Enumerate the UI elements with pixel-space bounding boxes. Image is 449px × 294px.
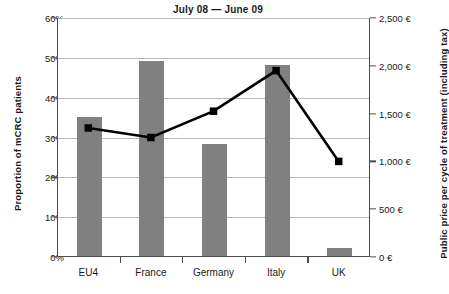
y-tick-mark-right — [370, 161, 376, 162]
x-tick-label: UK — [294, 267, 384, 278]
x-tick-mark — [307, 257, 308, 263]
bar — [327, 248, 352, 256]
y-tick-label-right: 1,500 € — [379, 108, 439, 119]
gridline — [58, 58, 369, 59]
y-tick-mark-right — [370, 256, 376, 257]
y-tick-label-right: 500 € — [379, 204, 439, 215]
y-tick-mark-right — [370, 65, 376, 66]
y-axis-label-right: Public price per cycle of treatment (inc… — [438, 19, 449, 269]
gridline — [58, 18, 369, 19]
y-tick-label-right: 0 € — [379, 252, 439, 263]
y-tick-label-right: 2,000 € — [379, 60, 439, 71]
bar — [77, 117, 102, 256]
y-tick-mark-right — [370, 113, 376, 114]
chart-title: July 08 — June 09 — [0, 4, 436, 15]
bar — [139, 61, 164, 256]
plot-area — [57, 18, 370, 257]
y-tick-label-right: 2,500 € — [379, 13, 439, 24]
y-tick-mark-right — [370, 209, 376, 210]
y-tick-label-right: 1,000 € — [379, 156, 439, 167]
y-tick-mark-right — [370, 17, 376, 18]
y-axis-label-left: Proportion of mCRC patients — [12, 64, 23, 224]
x-tick-mark — [245, 257, 246, 263]
x-tick-mark — [120, 257, 121, 263]
gridline — [58, 138, 369, 139]
bar — [265, 65, 290, 256]
x-tick-mark — [182, 257, 183, 263]
bar — [202, 144, 227, 256]
gridline — [58, 98, 369, 99]
